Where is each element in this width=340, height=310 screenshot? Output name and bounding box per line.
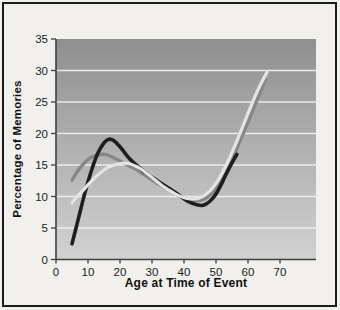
y-axis-title: Percentage of Memories	[11, 80, 23, 217]
y-tick-label: 25	[35, 96, 48, 108]
y-tick-label: 30	[35, 65, 48, 77]
y-tick-label: 20	[35, 128, 48, 140]
y-tick-label: 15	[35, 159, 48, 171]
y-tick-label: 0	[42, 254, 48, 266]
x-axis-title: Age at Time of Event	[56, 276, 316, 290]
plot-area	[56, 39, 316, 260]
reminiscence-bump-figure: 01020304050607005101520253035 Percentage…	[0, 0, 340, 310]
y-tick-label: 5	[42, 222, 48, 234]
line-chart: 01020304050607005101520253035	[0, 0, 340, 310]
y-tick-label: 35	[35, 33, 48, 45]
y-tick-label: 10	[35, 191, 48, 203]
